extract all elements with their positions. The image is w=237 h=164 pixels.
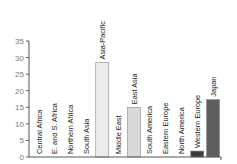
- bar-asia-pacific: [96, 63, 109, 157]
- y-tick-label: 20: [15, 87, 24, 96]
- bar-east-asia: [127, 107, 140, 157]
- bar-japan: [207, 100, 220, 157]
- category-label: South America: [145, 105, 154, 154]
- category-label: Japan: [209, 77, 218, 97]
- category-label: Central Africa: [35, 109, 44, 154]
- category-label: Eastern Europe: [161, 103, 170, 154]
- x-axis: [29, 157, 221, 160]
- bar-chart: 05101520253035 Central AfricaE. and S. A…: [0, 0, 237, 164]
- y-tick-label: 30: [15, 54, 24, 63]
- bar-western-europe: [191, 151, 204, 157]
- y-tick-label: 0: [20, 153, 25, 162]
- category-label: East Asia: [130, 73, 139, 105]
- y-tick-label: 10: [15, 120, 24, 129]
- category-label: Middle East: [114, 115, 123, 154]
- y-tick-label: 5: [20, 136, 25, 145]
- category-label: E. and S. Africa: [50, 102, 59, 154]
- y-tick-label: 25: [15, 70, 24, 79]
- category-label: Western Europe: [193, 95, 202, 148]
- y-tick-label: 35: [15, 37, 24, 46]
- y-axis: 05101520253035: [15, 37, 29, 162]
- bars: Central AfricaE. and S. AfricaNorthern A…: [35, 21, 220, 157]
- y-tick-label: 15: [15, 103, 24, 112]
- category-label: Northern Africa: [66, 104, 75, 154]
- category-label: South Asia: [82, 118, 91, 154]
- category-label: Asia-Pacific: [98, 21, 107, 60]
- category-label: North America: [177, 106, 186, 154]
